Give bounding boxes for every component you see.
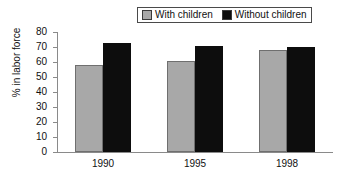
legend-label-with-children: With children <box>155 9 213 20</box>
y-axis-line <box>57 32 58 153</box>
legend-entry-with-children: With children <box>142 9 213 20</box>
bar-1995-series0 <box>167 61 195 152</box>
bar-1998-series0 <box>259 50 287 152</box>
chart-legend: With children Without children <box>137 7 312 23</box>
y-tick-20: 20 <box>53 122 57 123</box>
y-tick-70: 70 <box>53 47 57 48</box>
black-swatch-icon <box>222 10 232 20</box>
y-tick-0: 0 <box>53 152 57 153</box>
x-axis-label-1998: 1998 <box>241 158 333 169</box>
y-tick-label-80: 80 <box>36 27 47 37</box>
bar-1998-series1 <box>287 47 315 152</box>
y-tick-label-50: 50 <box>36 72 47 82</box>
y-tick-50: 50 <box>53 77 57 78</box>
legend-label-without-children: Without children <box>235 9 307 20</box>
plot-area: 80706050403020100 199019951998 <box>57 32 333 152</box>
x-axis-label-1995: 1995 <box>149 158 241 169</box>
y-tick-40: 40 <box>53 92 57 93</box>
y-axis-title: % in labor force <box>11 3 22 123</box>
gray-swatch-icon <box>142 10 152 20</box>
bar-chart: With children Without children % in labo… <box>0 0 338 190</box>
y-tick-label-0: 0 <box>41 147 47 157</box>
y-tick-label-70: 70 <box>36 42 47 52</box>
y-tick-label-30: 30 <box>36 102 47 112</box>
x-axis-line <box>57 152 333 153</box>
bar-1990-series1 <box>103 43 131 153</box>
y-tick-60: 60 <box>53 62 57 63</box>
y-tick-10: 10 <box>53 137 57 138</box>
y-tick-label-10: 10 <box>36 132 47 142</box>
bar-1995-series1 <box>195 46 223 153</box>
y-tick-label-40: 40 <box>36 87 47 97</box>
x-axis-label-1990: 1990 <box>57 158 149 169</box>
y-tick-80: 80 <box>53 32 57 33</box>
bar-1990-series0 <box>75 65 103 152</box>
y-tick-label-60: 60 <box>36 57 47 67</box>
y-tick-label-20: 20 <box>36 117 47 127</box>
legend-entry-without-children: Without children <box>222 9 307 20</box>
y-tick-30: 30 <box>53 107 57 108</box>
